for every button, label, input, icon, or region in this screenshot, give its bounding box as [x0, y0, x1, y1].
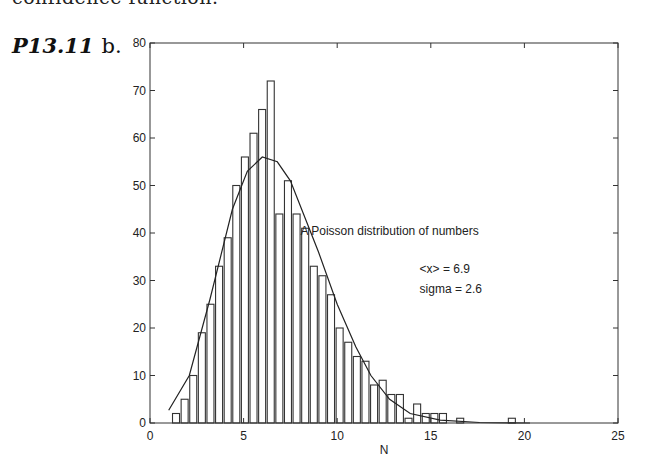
histogram-bar [173, 414, 180, 424]
chart-annotation: sigma = 2.6 [420, 282, 483, 296]
chart-annotation: A Poisson distribution of numbers [301, 224, 479, 238]
x-axis-label: N [380, 443, 389, 457]
y-tick-label: 40 [133, 226, 147, 240]
histogram-bar [328, 295, 335, 423]
x-tick-label: 0 [147, 429, 154, 443]
histogram-bar [310, 266, 317, 423]
histogram-bar [422, 414, 429, 424]
histogram-bar [250, 133, 257, 423]
histogram-bar [293, 214, 300, 423]
annotations: A Poisson distribution of numbers<x> = 6… [301, 224, 483, 296]
x-tick-label: 5 [240, 429, 247, 443]
histogram-bar [276, 214, 283, 423]
histogram-bar [198, 333, 205, 423]
histogram-bar [216, 266, 223, 423]
histogram-bars [173, 81, 516, 423]
histogram-bar [336, 328, 343, 423]
x-tick-label: 25 [611, 429, 625, 443]
histogram-bar [439, 414, 446, 424]
histogram-bar [405, 418, 412, 423]
y-tick-label: 60 [133, 131, 147, 145]
histogram-bar [181, 399, 188, 423]
y-tick-label: 20 [133, 321, 147, 335]
x-tick-label: 15 [424, 429, 438, 443]
histogram-chart: 051015202501020304050607080 A Poisson di… [0, 0, 651, 474]
histogram-bar [233, 186, 240, 424]
histogram-bar [345, 342, 352, 423]
y-tick-label: 30 [133, 274, 147, 288]
histogram-bar [302, 228, 309, 423]
histogram-bar [241, 157, 248, 423]
histogram-bar [284, 181, 291, 423]
histogram-bar [371, 385, 378, 423]
histogram-bar [190, 376, 197, 424]
y-tick-label: 70 [133, 84, 147, 98]
chart-annotation: <x> = 6.9 [420, 262, 471, 276]
histogram-bar [353, 357, 360, 424]
y-tick-label: 80 [133, 36, 147, 50]
histogram-bar [319, 276, 326, 423]
histogram-bar [224, 238, 231, 423]
x-tick-label: 20 [518, 429, 532, 443]
y-tick-label: 0 [139, 416, 146, 430]
histogram-bar [207, 304, 214, 423]
histogram-bar [414, 404, 421, 423]
x-tick-label: 10 [331, 429, 345, 443]
y-tick-label: 50 [133, 179, 147, 193]
histogram-bar [267, 81, 274, 423]
y-tick-label: 10 [133, 369, 147, 383]
